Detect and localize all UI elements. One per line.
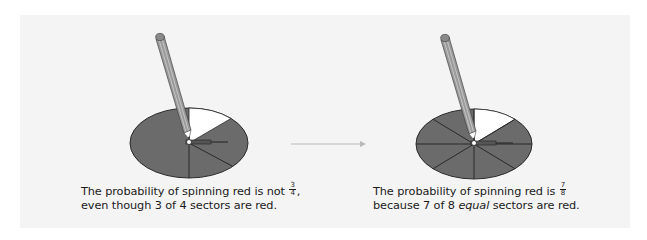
left-caption-line1: The probability of spinning red is not 3… [81, 184, 300, 199]
right-fraction: 78 [560, 182, 566, 197]
left-fraction: 34 [289, 182, 295, 197]
emphasis-equal: equal [458, 199, 489, 212]
right-caption-line2: because 7 of 8 equal sectors are red. [373, 199, 580, 214]
right-caption: The probability of spinning red is 78 be… [373, 184, 580, 214]
left-caption: The probability of spinning red is not 3… [81, 184, 300, 214]
left-caption-line2: even though 3 of 4 sectors are red. [81, 199, 300, 214]
right-caption-line1: The probability of spinning red is 78 [373, 184, 580, 199]
left-spinner [130, 33, 248, 178]
right-spinner [416, 34, 532, 179]
right-arrow-icon [291, 141, 366, 147]
